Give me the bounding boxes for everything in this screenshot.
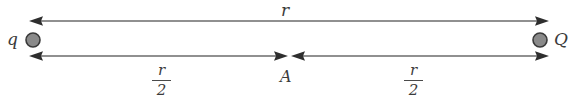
right-half-denominator: 2 [409,81,419,98]
total-distance-left-arrowhead [29,16,43,26]
right-half-right-arrowhead [535,51,549,61]
total-distance-label: r [281,2,289,19]
left-charge-sphere [26,33,40,47]
left-half-denominator: 2 [157,81,167,98]
left-charge-label: q [7,31,18,48]
left-half-distance-label: r 2 [152,63,171,98]
left-half-distance-arrow [29,51,288,61]
right-charge-label: Q [554,31,568,48]
total-distance-right-arrowhead [535,16,549,26]
right-half-distance-arrow [291,51,549,61]
midpoint-label: A [280,69,292,85]
right-half-distance-label: r 2 [404,63,423,98]
left-half-numerator: r [158,63,165,80]
physics-diagram: q Q r A r 2 r 2 [0,0,575,100]
left-half-left-arrowhead [29,51,43,61]
right-half-left-arrowhead [291,51,305,61]
left-half-right-arrowhead [274,51,288,61]
right-charge-sphere [533,33,547,47]
right-half-numerator: r [410,63,417,80]
